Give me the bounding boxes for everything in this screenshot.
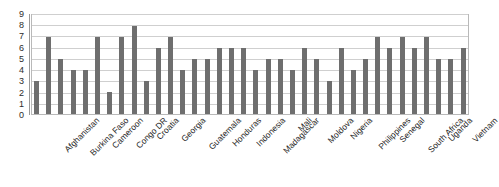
bar — [156, 48, 161, 114]
y-axis-tick-label: 0 — [19, 111, 24, 120]
bar — [107, 92, 112, 114]
bar — [327, 81, 332, 114]
bar — [448, 59, 453, 114]
y-axis-line — [29, 14, 30, 115]
bar-series — [32, 15, 468, 114]
y-axis-tick-label: 4 — [19, 66, 24, 75]
bar — [241, 48, 246, 114]
bar — [71, 70, 76, 114]
bar — [46, 37, 51, 114]
bar — [302, 48, 307, 114]
bar — [58, 59, 63, 114]
bar — [83, 70, 88, 114]
bar — [278, 59, 283, 114]
y-axis-tick-label: 9 — [19, 10, 24, 19]
bar — [217, 48, 222, 114]
bar — [119, 37, 124, 114]
x-axis-tick-label: Vietnam — [471, 116, 499, 144]
y-axis: 0123456789 — [0, 14, 29, 115]
bar — [314, 59, 319, 114]
y-axis-tick-label: 8 — [19, 21, 24, 30]
bar — [387, 48, 392, 114]
bar — [424, 37, 429, 114]
bar — [412, 48, 417, 114]
y-axis-tick-label: 6 — [19, 43, 24, 52]
y-axis-tick-label: 5 — [19, 54, 24, 63]
y-axis-tick-label: 1 — [19, 99, 24, 108]
bar — [461, 48, 466, 114]
bar — [351, 70, 356, 114]
y-axis-tick-label: 2 — [19, 88, 24, 97]
bar — [192, 59, 197, 114]
y-axis-tick-label: 7 — [19, 32, 24, 41]
bar — [266, 59, 271, 114]
bar — [400, 37, 405, 114]
bar — [34, 81, 39, 114]
y-axis-tick-label: 3 — [19, 77, 24, 86]
x-axis-tick-label: Georgia — [180, 116, 208, 144]
bar — [229, 48, 234, 114]
bar — [95, 37, 100, 114]
bar — [144, 81, 149, 114]
bar — [168, 37, 173, 114]
bar — [363, 59, 368, 114]
bar — [436, 59, 441, 114]
bar — [253, 70, 258, 114]
bar — [339, 48, 344, 114]
bar — [205, 59, 210, 114]
x-axis-labels: AfghanistanBurkina FasoCameroonCongo DRC… — [32, 116, 468, 187]
bar — [180, 70, 185, 114]
bar — [132, 26, 137, 114]
bar — [290, 70, 295, 114]
bar — [375, 37, 380, 114]
